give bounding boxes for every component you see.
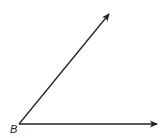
vertex-label: B	[10, 123, 17, 135]
angle-diagram: B	[0, 0, 165, 138]
diagonal-ray	[19, 14, 109, 124]
